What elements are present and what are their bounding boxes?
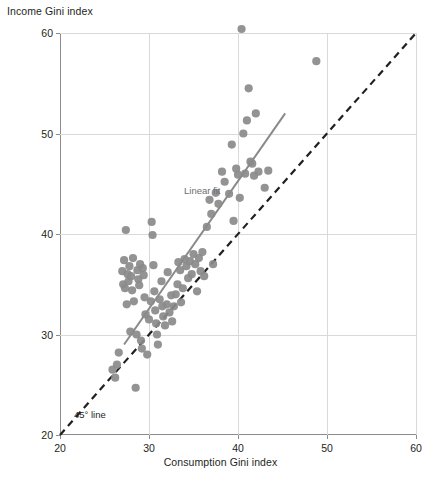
x-tick-mark (238, 435, 239, 439)
gridline-vertical (416, 33, 417, 435)
scatter-point (148, 231, 156, 239)
scatter-point (132, 384, 140, 392)
scatter-point (129, 254, 137, 262)
annotation-linear-fit: Linear fit (184, 185, 220, 196)
x-tick-label: 30 (143, 442, 155, 454)
scatter-point (115, 348, 123, 356)
scatter-point (252, 109, 260, 117)
scatter-point (152, 319, 160, 327)
scatter-point (234, 171, 242, 179)
scatter-point (156, 295, 164, 303)
scatter-chart: Income Gini index 20304050602030405060 L… (0, 0, 441, 483)
scatter-point (157, 277, 165, 285)
scatter-point (261, 184, 269, 192)
scatter-point (121, 284, 129, 292)
scatter-point (254, 168, 262, 176)
scatter-point (139, 264, 147, 272)
scatter-point (245, 84, 253, 92)
scatter-point (111, 374, 119, 382)
scatter-point (135, 281, 143, 289)
scatter-point (170, 302, 178, 310)
scatter-point (148, 218, 156, 226)
scatter-point (193, 287, 201, 295)
data-layer (60, 33, 416, 435)
scatter-point (161, 321, 169, 329)
scatter-point (151, 306, 159, 314)
y-tick-label: 20 (41, 429, 53, 441)
x-tick-mark (327, 435, 328, 439)
scatter-point (228, 140, 236, 148)
scatter-point (172, 290, 180, 298)
x-tick-label: 60 (410, 442, 422, 454)
x-tick-label: 40 (232, 442, 244, 454)
scatter-point (241, 170, 249, 178)
scatter-point (128, 286, 136, 294)
scatter-points (108, 25, 320, 392)
y-tick-label: 60 (41, 27, 53, 39)
plot-area: 20304050602030405060 Linear fit 45° line (60, 33, 416, 435)
scatter-point (123, 300, 131, 308)
scatter-point (137, 336, 145, 344)
scatter-point (237, 25, 245, 33)
scatter-point (236, 194, 244, 202)
scatter-point (113, 361, 121, 369)
scatter-point (188, 270, 196, 278)
x-tick-mark (416, 435, 417, 439)
scatter-point (203, 223, 211, 231)
scatter-point (248, 160, 256, 168)
x-tick-mark (149, 435, 150, 439)
y-tick-label: 30 (41, 329, 53, 341)
y-tick-label: 40 (41, 228, 53, 240)
scatter-point (153, 330, 161, 338)
scatter-point (154, 340, 162, 348)
scatter-point (130, 297, 138, 305)
scatter-point (198, 248, 206, 256)
scatter-point (168, 317, 176, 325)
scatter-point (229, 217, 237, 225)
annotation-45-degree-line: 45° line (74, 409, 106, 420)
scatter-point (145, 315, 153, 323)
scatter-point (143, 351, 151, 359)
scatter-point (122, 226, 130, 234)
scatter-point (140, 271, 148, 279)
x-axis-title: Consumption Gini index (0, 456, 441, 468)
scatter-point (218, 168, 226, 176)
x-tick-label: 20 (54, 442, 66, 454)
y-tick-label: 50 (41, 128, 53, 140)
y-tick-mark (56, 435, 60, 436)
scatter-point (239, 129, 247, 137)
scatter-point (214, 200, 222, 208)
scatter-point (312, 57, 320, 65)
y-axis-title: Income Gini index (7, 5, 93, 17)
scatter-point (177, 298, 185, 306)
scatter-point (149, 261, 157, 269)
x-tick-label: 50 (321, 442, 333, 454)
scatter-point (164, 268, 172, 276)
scatter-point (163, 300, 171, 308)
scatter-point (209, 260, 217, 268)
scatter-point (207, 210, 215, 218)
scatter-point (200, 272, 208, 280)
scatter-point (243, 116, 251, 124)
scatter-point (264, 167, 272, 175)
scatter-point (127, 272, 135, 280)
scatter-point (205, 196, 213, 204)
scatter-point (179, 284, 187, 292)
scatter-point (225, 190, 233, 198)
scatter-point (150, 287, 158, 295)
scatter-point (125, 262, 133, 270)
scatter-point (221, 178, 229, 186)
scatter-point (147, 297, 155, 305)
